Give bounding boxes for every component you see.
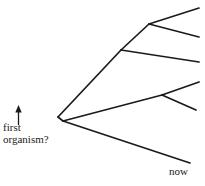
root-label: first organism?: [3, 122, 49, 145]
root-label-line-2: organism?: [3, 134, 49, 146]
tree-branches-svg: [0, 0, 205, 186]
branch-lower-split-to-tip-6: [63, 121, 190, 163]
present-day-label: now: [169, 166, 188, 178]
branch-upper-split-to-upper-upper-split: [121, 24, 149, 50]
branch-upper-upper-split-to-tip-2: [149, 24, 199, 37]
branch-lower-upper-split-to-tip-5: [162, 95, 196, 110]
branch-root-to-lower-split: [58, 117, 63, 121]
root-label-line-1: first: [3, 122, 49, 134]
branch-root-to-upper-split: [58, 50, 121, 117]
evolutionary-tree-diagram: first organism? now: [0, 0, 205, 186]
branch-lower-split-to-lower-upper-split: [63, 95, 162, 121]
branch-upper-split-to-tip-3: [121, 50, 199, 62]
branch-lower-upper-split-to-tip-4: [162, 82, 199, 95]
branch-upper-upper-split-to-tip-1: [149, 8, 199, 24]
